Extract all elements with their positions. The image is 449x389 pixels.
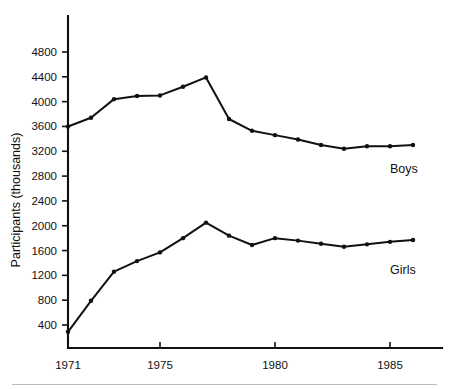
y-tick-label: 2800 [31,170,57,182]
y-tick-label: 1200 [31,269,57,281]
data-point-boys [204,75,208,79]
data-point-girls [204,220,208,224]
data-point-girls [227,233,231,237]
data-point-boys [135,94,139,98]
x-tick-label: 1975 [147,359,173,371]
data-point-girls [66,330,70,334]
data-point-girls [89,299,93,303]
data-point-boys [227,117,231,121]
data-point-girls [181,236,185,240]
data-point-girls [411,238,415,242]
y-tick-label: 3200 [31,145,57,157]
x-axis-tick-group: 1971197519801985 [55,342,403,371]
data-point-girls [273,236,277,240]
y-tick-label: 800 [38,294,57,306]
data-point-boys [388,144,392,148]
data-point-girls [319,242,323,246]
y-tick-label: 4800 [31,46,57,58]
y-tick-label: 4000 [31,96,57,108]
data-point-girls [112,269,116,273]
data-point-girls [250,243,254,247]
data-point-girls [388,240,392,244]
data-point-girls [158,250,162,254]
series-line-boys [68,77,413,148]
data-point-boys [250,129,254,133]
data-point-boys [319,143,323,147]
data-point-girls [365,242,369,246]
y-tick-label: 3600 [31,120,57,132]
data-point-boys [365,144,369,148]
x-tick-label: 1980 [262,359,288,371]
y-tick-label: 4400 [31,71,57,83]
data-point-girls [342,245,346,249]
x-tick-label: 1985 [377,359,403,371]
line-chart: 4008001200160020002400280032003600400044… [0,0,449,389]
data-point-boys [296,137,300,141]
y-tick-label: 400 [38,319,57,331]
series-group [66,75,415,334]
data-point-boys [411,143,415,147]
data-point-boys [273,133,277,137]
series-line-girls [68,223,413,332]
data-point-girls [296,238,300,242]
y-axis-tick-group: 4008001200160020002400280032003600400044… [31,46,68,331]
y-tick-label: 2000 [31,220,57,232]
x-tick-label: 1971 [55,359,81,371]
data-point-boys [66,124,70,128]
series-label-group: BoysGirls [390,162,418,277]
data-point-boys [112,97,116,101]
data-point-boys [342,147,346,151]
y-tick-label: 2400 [31,195,57,207]
data-point-boys [158,93,162,97]
series-label-boys: Boys [390,162,418,176]
data-point-girls [135,259,139,263]
footer-divider [12,384,437,385]
data-point-boys [181,85,185,89]
y-tick-label: 1600 [31,245,57,257]
series-label-girls: Girls [390,263,416,277]
data-point-boys [89,116,93,120]
y-axis-title: Participants (thousands) [9,133,23,268]
chart-canvas: 4008001200160020002400280032003600400044… [0,0,449,389]
